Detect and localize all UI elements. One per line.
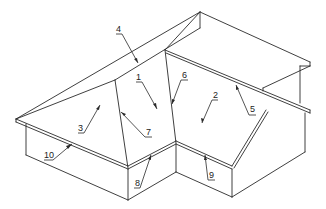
callout-1: 1	[136, 72, 157, 109]
svg-text:5: 5	[250, 104, 255, 114]
roof-drawing: 1 2 3 4 5 6 7 8 9 10	[0, 0, 326, 209]
callout-7: 7	[121, 112, 152, 137]
valley-hip-lines	[115, 50, 176, 168]
svg-text:6: 6	[182, 70, 187, 80]
callout-6: 6	[172, 70, 188, 104]
callout-4: 4	[116, 24, 138, 63]
arrowheads	[66, 58, 239, 160]
svg-text:9: 9	[209, 170, 214, 180]
svg-text:10: 10	[44, 150, 54, 160]
svg-text:7: 7	[146, 127, 151, 137]
right-wing-roof	[165, 12, 310, 113]
svg-text:4: 4	[116, 24, 121, 34]
callout-2: 2	[202, 90, 218, 123]
walls	[26, 113, 305, 200]
svg-text:1: 1	[136, 72, 141, 82]
svg-text:3: 3	[78, 123, 83, 133]
svg-text:2: 2	[213, 90, 218, 100]
callout-8: 8	[134, 155, 151, 188]
svg-text:8: 8	[135, 178, 140, 188]
right-wing-gable	[232, 110, 268, 168]
roof-diagram: 1 2 3 4 5 6 7 8 9 10	[0, 0, 326, 209]
